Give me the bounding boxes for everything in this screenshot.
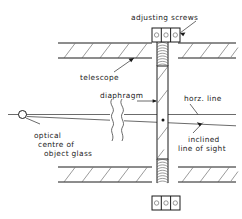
- diagram-canvas: adjusting screws telescope diaphragm hor…: [0, 0, 242, 219]
- telescope-wall-upper-right: [178, 43, 238, 58]
- screw-head-box-top: [152, 28, 180, 42]
- label-horz-line: horz. line: [184, 94, 222, 103]
- telescope-wall-upper: [58, 43, 238, 58]
- screw-head-circle: [173, 201, 177, 205]
- label-diaphragm: diaphragm: [100, 91, 143, 100]
- inclined-line-of-sight: [27, 117, 236, 126]
- label-telescope: telescope: [80, 73, 119, 82]
- screw-head-box-bottom: [152, 196, 180, 210]
- adjusting-screw-top: [152, 28, 180, 66]
- adjusting-screw-bottom: [152, 159, 180, 210]
- arrowhead-adjusting-screws: [180, 32, 185, 36]
- screw-head-circle: [173, 33, 177, 37]
- arrowhead-diaphragm: [153, 99, 157, 103]
- hatching-upper-left: [64, 44, 147, 59]
- leader-adjusting-screws: [180, 21, 196, 33]
- crosshair-dot: [162, 119, 165, 122]
- telescope-wall-lower-right: [178, 167, 238, 182]
- diaphragm-break-marks: [111, 99, 124, 141]
- telescope-wall-lower-left: [58, 167, 152, 182]
- telescope-diaphragm-diagram: adjusting screws telescope diaphragm hor…: [0, 0, 242, 219]
- leader-optical-centre: [26, 118, 40, 124]
- label-adjusting-screws: adjusting screws: [131, 13, 198, 22]
- screw-head-circle: [154, 201, 158, 205]
- label-optical-centre-2: centre of: [38, 140, 74, 149]
- screw-head-circle: [164, 33, 168, 37]
- label-optical-centre-1: optical: [34, 131, 61, 140]
- leader-horz-line: [190, 104, 198, 115]
- hatching-lower-right: [182, 168, 238, 183]
- telescope-wall-upper-left: [58, 43, 152, 58]
- hatching-upper-right: [182, 44, 238, 59]
- screw-thread-top: [157, 42, 168, 66]
- hatching-lower-left: [64, 168, 147, 183]
- optical-centre-marker: [19, 111, 27, 119]
- screw-head-circle: [154, 33, 158, 37]
- label-inclined-line-2: line of sight: [178, 144, 226, 153]
- diaphragm-rod: [157, 66, 168, 159]
- label-inclined-line-1: inclined: [188, 135, 220, 144]
- screw-thread-bottom: [157, 159, 168, 183]
- screw-head-circle: [164, 201, 168, 205]
- telescope-wall-lower: [58, 167, 238, 182]
- label-optical-centre-3: object glass: [44, 149, 92, 158]
